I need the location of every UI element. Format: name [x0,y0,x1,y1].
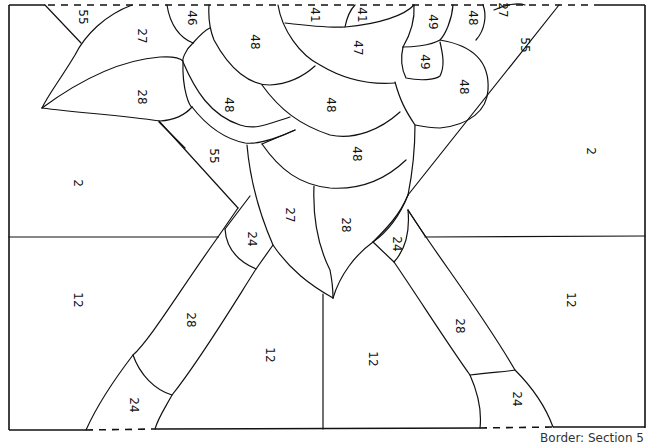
region-color-label: 47 [351,40,365,55]
band-edge [408,210,553,427]
band-edge [133,355,172,395]
scale-edge [345,5,355,27]
band-edge [470,370,515,375]
scale-edge [262,130,295,144]
scale-edge [262,144,406,188]
band-edge [155,245,273,429]
scale-edge [278,5,395,83]
region-color-label: 2 [71,179,85,187]
region-color-label: 27 [135,28,149,43]
band-edge [86,237,218,430]
region-color-label: 24 [245,231,259,246]
scale-edge [183,62,290,127]
region-color-label: 49 [426,14,440,29]
leaf-edge [314,186,333,298]
leaf-edge [42,107,192,121]
scale-edge [415,40,488,128]
region-edge [159,121,238,208]
region-color-label: 48 [466,10,480,25]
scale-edge [395,82,415,195]
region-color-label: 28 [184,312,198,327]
region-color-label: 48 [222,97,236,112]
scale-edge [403,5,414,47]
region-color-label: 28 [135,89,149,104]
region-edge [225,196,250,229]
leaf-edge [42,57,183,108]
border-bottom-dashed-right [480,427,553,428]
region-color-label: 27 [496,2,510,17]
region-color-label: 24 [510,391,524,406]
region-color-label: 2 [584,147,598,155]
region-edge [218,208,238,237]
region-color-label: 48 [324,97,338,112]
region-color-label: 41 [308,7,322,22]
band-edge [373,242,481,428]
region-color-label: 55 [518,37,532,52]
region-color-label: 12 [366,351,380,366]
region-color-label: 48 [457,79,471,94]
region-edge [373,195,408,242]
scale-edge [285,5,414,27]
region-color-label: 48 [248,34,262,49]
region-color-label: 12 [71,292,85,307]
border-bottom-dashed-left [86,429,155,430]
region-edge [408,5,559,195]
region-color-label: 55 [207,148,221,163]
region-color-label: 41 [355,7,369,22]
region-color-label: 24 [390,236,404,251]
region-color-label: 28 [453,318,467,333]
scale-edge [183,43,193,107]
region-color-label: 27 [283,207,297,222]
region-color-label: 12 [263,347,277,362]
region-color-label: 28 [339,217,353,232]
scale-edge [192,107,295,143]
scale-edge [193,28,210,43]
region-color-label: 46 [185,10,199,25]
region-color-label: 55 [76,9,90,24]
region-color-label: 24 [127,397,141,412]
divider-right [425,236,645,237]
region-color-label: 12 [564,292,578,307]
section-caption: Border: Section 5 [540,431,644,445]
region-color-label: 49 [418,54,432,69]
border-bottom-mid [155,428,480,429]
region-edge [408,210,425,236]
region-color-label: 48 [350,146,364,161]
